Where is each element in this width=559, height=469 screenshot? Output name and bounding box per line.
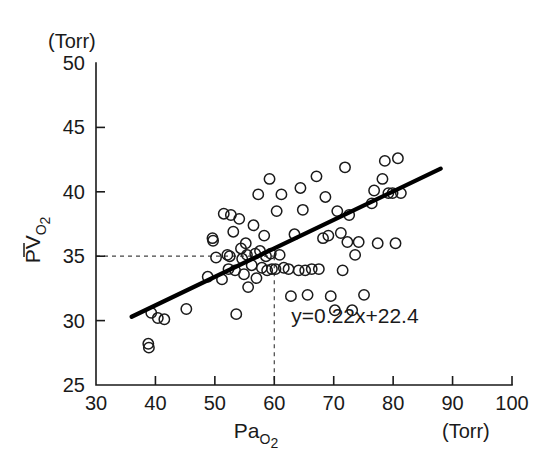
data-point	[377, 174, 387, 184]
data-point	[342, 237, 352, 247]
x-tick-label: 90	[441, 392, 463, 414]
y-axis-title: PVO2	[21, 216, 53, 263]
data-point	[276, 189, 286, 199]
data-point	[350, 250, 360, 260]
data-point	[181, 304, 191, 314]
scatter-plot-figure: (Torr) (Torr) PVO2 PaO2 y=0.22x+22.4 253…	[0, 0, 559, 469]
data-point	[353, 237, 363, 247]
data-point	[336, 228, 346, 238]
y-tick-label: 40	[63, 181, 85, 203]
x-tick-label: 100	[495, 392, 528, 414]
svg-text:PVO2: PVO2	[21, 216, 53, 263]
tick-labels: 25303540455030405060708090100	[63, 52, 529, 414]
y-tick-label: 35	[63, 245, 85, 267]
data-point	[295, 183, 305, 193]
x-tick-label: 70	[323, 392, 345, 414]
data-point	[239, 269, 249, 279]
data-point	[234, 214, 244, 224]
axes	[96, 63, 512, 385]
data-point	[359, 290, 369, 300]
plot-canvas: (Torr) (Torr) PVO2 PaO2 y=0.22x+22.4 253…	[0, 0, 559, 469]
data-point	[251, 273, 261, 283]
data-point	[259, 230, 269, 240]
data-point	[228, 227, 238, 237]
y-tick-label: 30	[63, 310, 85, 332]
data-point	[243, 282, 253, 292]
y-tick-label: 25	[63, 374, 85, 396]
x-axis-title-sub2: 2	[270, 435, 278, 451]
regression-equation: y=0.22x+22.4	[291, 304, 419, 327]
data-point	[390, 238, 400, 248]
data-point	[248, 220, 258, 230]
y-axis-unit-label: (Torr)	[48, 30, 96, 52]
data-point	[380, 156, 390, 166]
data-point	[159, 314, 169, 324]
x-tick-label: 40	[144, 392, 166, 414]
data-point	[326, 291, 336, 301]
x-tick-label: 60	[263, 392, 285, 414]
data-point	[337, 265, 347, 275]
data-point	[340, 162, 350, 172]
data-point	[253, 189, 263, 199]
data-point	[314, 264, 324, 274]
y-axis-title-sub: O	[33, 224, 49, 235]
data-point	[231, 309, 241, 319]
x-axis-title-sub: O	[260, 431, 271, 447]
data-point	[219, 208, 229, 218]
data-point	[286, 291, 296, 301]
y-tick-label: 45	[63, 116, 85, 138]
y-tick-label: 50	[63, 52, 85, 74]
data-point	[372, 238, 382, 248]
data-point	[311, 171, 321, 181]
data-point	[211, 252, 221, 262]
x-axis-unit-label: (Torr)	[442, 420, 490, 442]
x-tick-label: 80	[382, 392, 404, 414]
x-axis-title: PaO2	[234, 419, 279, 451]
y-axis-title-sub2: 2	[37, 216, 53, 224]
data-point	[298, 205, 308, 215]
x-tick-label: 50	[204, 392, 226, 414]
x-axis-title-main: Pa	[234, 419, 260, 442]
guide-lines	[96, 256, 274, 385]
data-point	[264, 174, 274, 184]
data-point	[369, 185, 379, 195]
data-point	[393, 153, 403, 163]
data-point	[302, 290, 312, 300]
x-tick-label: 30	[85, 392, 107, 414]
data-point	[320, 192, 330, 202]
data-point	[271, 206, 281, 216]
